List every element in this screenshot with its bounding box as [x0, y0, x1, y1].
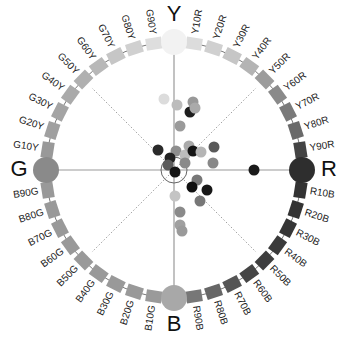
hue-step-b10g — [145, 289, 163, 303]
diagonal-guide-line — [92, 170, 174, 252]
hue-step-r80b — [204, 284, 223, 300]
data-point — [159, 94, 170, 105]
swatch — [185, 289, 203, 303]
hue-step-label: G90Y — [144, 8, 159, 35]
data-point — [187, 182, 198, 193]
swatch — [106, 275, 126, 293]
hue-step-label: R50B — [268, 263, 294, 289]
data-point — [196, 147, 207, 158]
hue-step-r10b — [293, 181, 307, 199]
hue-step-label: R40B — [283, 246, 310, 270]
data-point — [209, 142, 220, 153]
swatch — [44, 121, 60, 140]
hue-step-label: R60B — [251, 277, 275, 304]
hue-step-label: R80B — [212, 299, 230, 327]
hue-step-label: R70B — [232, 290, 253, 318]
hue-step-y10r — [185, 36, 203, 50]
hue-step-label: Y70R — [294, 91, 321, 112]
hue-step-label: Y40R — [250, 35, 274, 62]
swatch — [125, 284, 144, 300]
swatch — [293, 181, 307, 199]
hue-step-label: R30B — [294, 227, 322, 248]
swatch — [40, 141, 54, 159]
swatch — [204, 40, 223, 56]
hue-step-g10y — [40, 141, 54, 159]
hue-step-label: Y30R — [231, 22, 252, 49]
hue-step-label: B30G — [94, 289, 116, 317]
swatch — [185, 36, 203, 50]
hue-step-r20b — [288, 200, 304, 219]
data-point — [175, 121, 186, 132]
hue-step-g20y — [44, 121, 60, 140]
data-point — [180, 158, 191, 169]
data-point — [170, 191, 181, 202]
hue-step-r90b — [185, 289, 203, 303]
elementary-g-label: G — [10, 156, 27, 181]
swatch — [106, 47, 126, 65]
hue-step-b80g — [44, 200, 60, 219]
hue-step-label: Y60R — [281, 69, 308, 93]
hue-step-label: B10G — [142, 304, 157, 331]
data-point — [177, 226, 188, 237]
hue-step-label: R20B — [303, 206, 331, 224]
data-point — [172, 100, 183, 111]
swatch — [145, 36, 163, 50]
hue-step-label: G80Y — [119, 13, 137, 41]
hue-step-b70g — [51, 218, 69, 238]
hue-step-label: G20Y — [18, 114, 46, 132]
swatch — [288, 200, 304, 219]
swatch — [51, 218, 69, 238]
data-point — [175, 207, 186, 218]
swatch — [204, 284, 223, 300]
elementary-b-marker — [161, 285, 187, 311]
hue-step-label: B70G — [26, 227, 54, 249]
swatch — [44, 200, 60, 219]
hue-step-label: B60G — [39, 245, 66, 269]
hue-step-label: Y50R — [267, 51, 292, 76]
swatch — [288, 121, 304, 140]
data-point — [190, 103, 201, 114]
elementary-y-marker — [161, 29, 187, 55]
hue-step-label: G10Y — [12, 138, 39, 153]
hue-step-g30y — [51, 102, 69, 122]
ncs-colour-circle-diagram: Y10RY20RY30RY40RY50RY60RY70RY80RY90RR10B… — [0, 0, 340, 344]
hue-step-y90r — [293, 141, 307, 159]
swatch — [293, 141, 307, 159]
hue-step-label: G50Y — [56, 50, 82, 76]
hue-step-b30g — [106, 275, 126, 293]
hue-step-label: Y90R — [309, 138, 335, 153]
hue-step-label: B40G — [73, 277, 97, 304]
hue-step-label: B80G — [17, 206, 45, 224]
hue-step-y80r — [288, 121, 304, 140]
data-point — [202, 185, 213, 196]
hue-step-b20g — [125, 284, 144, 300]
elementary-g-marker — [33, 157, 59, 183]
hue-step-b90g — [40, 181, 54, 199]
hue-step-label: Y10R — [189, 8, 204, 34]
hue-step-label: B90G — [12, 185, 39, 200]
swatch — [40, 181, 54, 199]
data-point — [208, 158, 219, 169]
colour-circle-canvas: Y10RY20RY30RY40RY50RY60RY70RY80RY90RR10B… — [0, 0, 340, 344]
hue-step-g80y — [125, 40, 144, 56]
data-point — [195, 196, 206, 207]
hue-step-label: G30Y — [27, 90, 55, 112]
hue-step-label: B50G — [54, 262, 80, 288]
hue-step-y20r — [204, 40, 223, 56]
hue-step-label: R90B — [191, 305, 206, 332]
hue-step-label: G60Y — [75, 35, 99, 62]
hue-step-g70y — [106, 47, 126, 65]
elementary-r-label: R — [321, 156, 337, 181]
swatch — [145, 289, 163, 303]
elementary-y-label: Y — [167, 1, 182, 26]
swatch — [51, 102, 69, 122]
hue-step-label: G40Y — [40, 69, 67, 93]
hue-step-label: B20G — [118, 298, 136, 326]
elementary-b-label: B — [167, 311, 182, 336]
hue-step-label: G70Y — [96, 22, 118, 50]
data-point — [249, 165, 260, 176]
swatch — [125, 40, 144, 56]
data-point — [153, 145, 164, 156]
elementary-r-marker — [289, 157, 315, 183]
hue-step-label: Y80R — [303, 114, 330, 132]
